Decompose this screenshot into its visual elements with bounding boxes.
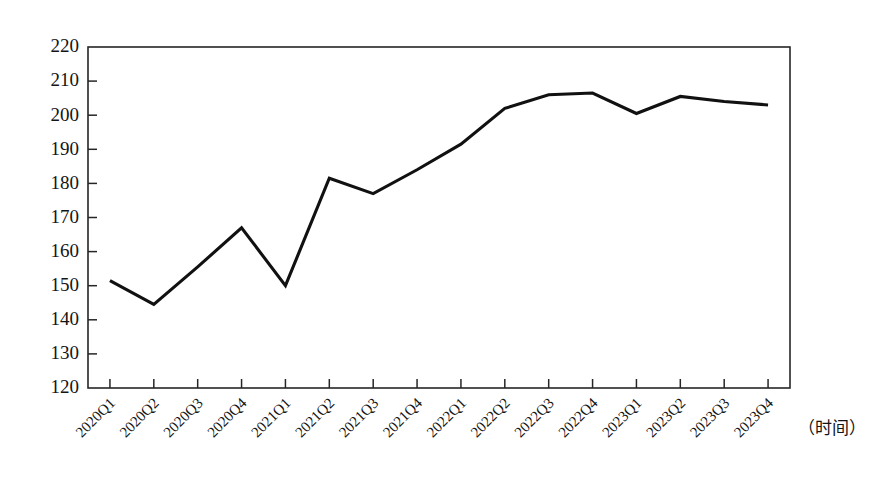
y-tick-label: 120 — [51, 376, 80, 397]
y-tick-label: 140 — [51, 308, 80, 329]
x-axis-label: （时间） — [798, 419, 866, 438]
y-tick-label: 190 — [51, 138, 80, 159]
y-tick-label: 220 — [51, 35, 80, 56]
y-tick-label: 150 — [51, 274, 80, 295]
y-tick-label: 160 — [51, 240, 80, 261]
chart-canvas: 120130140150160170180190200210220 2020Q1… — [0, 0, 890, 492]
y-tick-label: 130 — [51, 342, 80, 363]
y-axis-tick-labels: 120130140150160170180190200210220 — [51, 35, 80, 397]
y-tick-label: 200 — [51, 104, 80, 125]
y-tick-label: 180 — [51, 172, 80, 193]
y-tick-label: 170 — [51, 206, 80, 227]
line-chart: 120130140150160170180190200210220 2020Q1… — [0, 0, 890, 492]
y-tick-label: 210 — [51, 69, 80, 90]
